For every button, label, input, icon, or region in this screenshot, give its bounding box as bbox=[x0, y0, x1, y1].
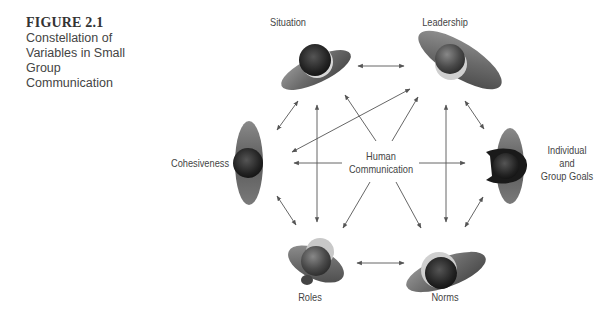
person-figure-cohesiveness bbox=[233, 121, 263, 205]
person-figure-leadership bbox=[410, 20, 509, 100]
person-figure-situation bbox=[276, 42, 356, 98]
person-figure-goals bbox=[486, 128, 527, 204]
node-label-roles: Roles bbox=[292, 291, 327, 304]
constellation-diagram bbox=[0, 0, 600, 321]
node-label-norms: Norms bbox=[419, 291, 472, 304]
node-label-leadership: Leadership bbox=[414, 16, 476, 29]
node-label-situation: Situation bbox=[262, 16, 315, 29]
node-label-cohesiveness: Cohesiveness bbox=[165, 157, 235, 170]
node-label-goals: Individual and Group Goals bbox=[536, 144, 598, 183]
center-label-human-communication: Human Communication bbox=[347, 150, 416, 176]
person-figure-roles bbox=[282, 238, 349, 291]
